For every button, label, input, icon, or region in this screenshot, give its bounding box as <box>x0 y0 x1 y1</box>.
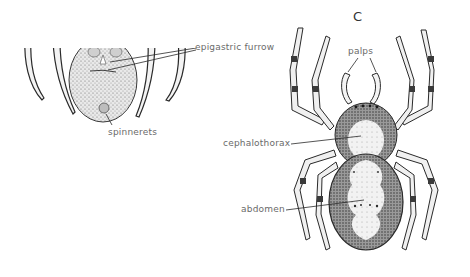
dorsal-spider-view <box>286 28 438 250</box>
label-cephalothorax: cephalothorax <box>223 139 290 148</box>
spinnerets-marker <box>99 103 109 113</box>
spider-anatomy-diagram: epigastric furrow spinnerets C palps cep… <box>0 0 470 277</box>
ventral-spider-view <box>25 38 196 125</box>
panel-letter: C <box>353 10 362 23</box>
label-palps: palps <box>348 47 373 56</box>
label-spinnerets: spinnerets <box>108 128 157 137</box>
label-abdomen: abdomen <box>241 205 285 214</box>
palps <box>342 73 381 104</box>
label-epigastric-furrow: epigastric furrow <box>195 43 274 52</box>
crop-edge <box>0 0 240 48</box>
